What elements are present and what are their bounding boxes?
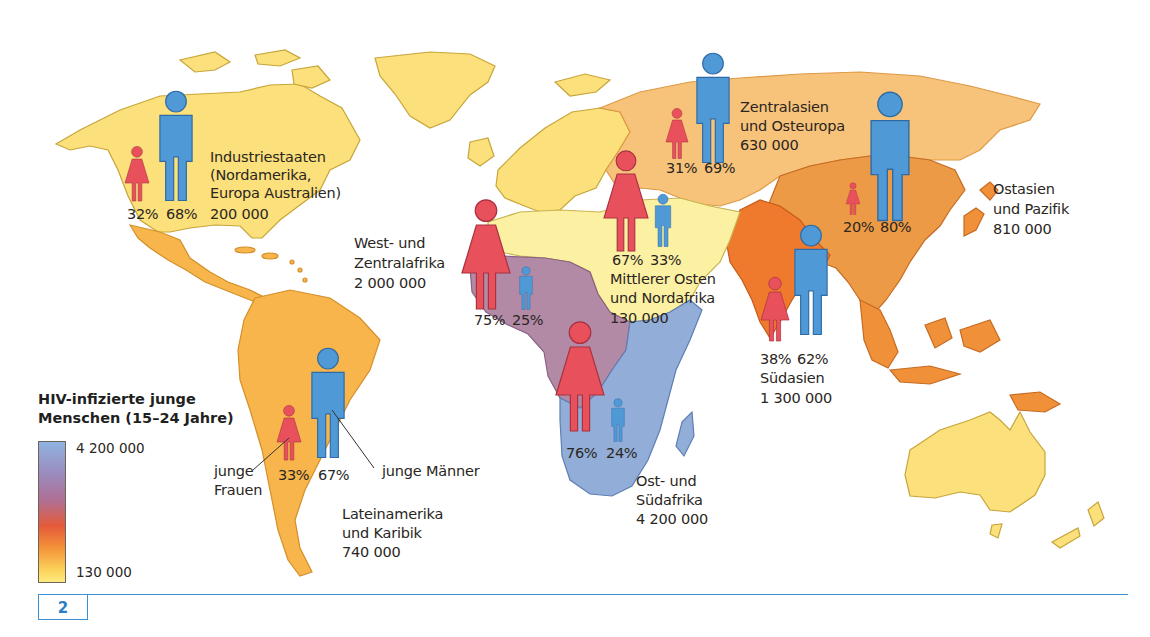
region-name-line: Südasien — [760, 369, 825, 387]
region-name-line: (Nordamerika, — [210, 166, 311, 184]
legend-color-scale — [38, 441, 66, 583]
legend-min-label: 130 000 — [76, 564, 132, 580]
female-percentage: 20% — [843, 218, 874, 236]
region-total: 810 000 — [993, 220, 1052, 238]
region-europe — [468, 74, 630, 212]
region-name-line: Lateinamerika — [342, 505, 443, 523]
region-total: 200 000 — [210, 205, 269, 223]
region-madagascar — [676, 412, 694, 456]
region-total: 2 000 000 — [354, 274, 426, 292]
region-name-line: West- und — [354, 234, 425, 252]
region-name-line: Mittlerer Osten — [610, 270, 716, 288]
annotation-men: junge Männer — [382, 462, 479, 480]
region-name-line: Ostasien — [993, 180, 1055, 198]
region-name-line: Industriestaaten — [210, 148, 326, 166]
male-percentage: 33% — [650, 251, 681, 269]
region-name-line: und Pazifik — [993, 200, 1069, 218]
annotation-women-line2: Frauen — [214, 481, 262, 499]
female-percentage: 31% — [666, 159, 697, 177]
region-name-line: Zentralasien — [740, 98, 829, 116]
male-percentage: 68% — [166, 205, 197, 223]
figure-number: 2 — [38, 594, 88, 620]
region-name-line: und Nordafrika — [610, 289, 715, 307]
female-percentage: 75% — [474, 311, 505, 329]
region-name-line: und Karibik — [342, 524, 422, 542]
region-total: 1 300 000 — [760, 389, 832, 407]
male-percentage: 80% — [880, 218, 911, 236]
legend-title: HIV-infizierte junge Menschen (15–24 Jah… — [38, 390, 234, 428]
region-name-line: und Osteuropa — [740, 117, 845, 135]
female-percentage: 38% — [760, 350, 791, 368]
female-percentage: 32% — [127, 205, 158, 223]
male-percentage: 69% — [704, 159, 735, 177]
world-map — [0, 0, 1150, 637]
region-name-line: Südafrika — [636, 491, 703, 509]
region-total: 4 200 000 — [636, 510, 708, 528]
region-australia — [905, 412, 1104, 548]
female-percentage: 67% — [612, 251, 643, 269]
region-greenland — [375, 52, 495, 128]
legend-max-label: 4 200 000 — [76, 440, 145, 456]
legend-title-line1: HIV-infizierte junge — [38, 390, 234, 409]
male-percentage: 67% — [318, 466, 349, 484]
female-percentage: 33% — [278, 466, 309, 484]
male-percentage: 62% — [797, 350, 828, 368]
female-percentage: 76% — [566, 444, 597, 462]
region-name-line: Ost- und — [636, 472, 696, 490]
region-total: 130 000 — [610, 309, 669, 327]
male-percentage: 25% — [512, 311, 543, 329]
male-percentage: 24% — [606, 444, 637, 462]
region-north-america — [56, 50, 360, 238]
region-total: 630 000 — [740, 136, 799, 154]
region-total: 740 000 — [342, 543, 401, 561]
legend-title-line2: Menschen (15–24 Jahre) — [38, 409, 234, 428]
annotation-women-line1: junge — [214, 462, 254, 480]
region-name-line: Europa Australien) — [210, 184, 341, 202]
region-name-line: Zentralafrika — [354, 254, 445, 272]
divider-rule — [88, 594, 1128, 595]
